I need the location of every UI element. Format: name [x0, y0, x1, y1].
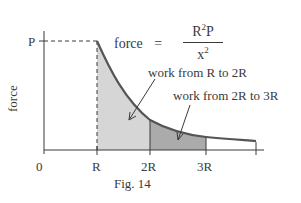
- tick-label-3r: 3R: [197, 160, 212, 173]
- formula-fraction: R2P x2: [183, 22, 223, 63]
- tick-label-2r: 2R: [141, 160, 156, 173]
- tick-label-0: 0: [36, 160, 43, 173]
- num-base: R: [192, 24, 201, 39]
- num-tail: P: [206, 24, 214, 39]
- p-label: P: [28, 35, 35, 48]
- y-axis-label: force: [5, 85, 21, 112]
- tick-label-r: R: [92, 160, 101, 173]
- den-exp: 2: [204, 45, 209, 55]
- formula-force: force: [114, 36, 143, 51]
- formula-equals: =: [154, 36, 162, 51]
- formula-numerator: R2P: [183, 22, 223, 43]
- annotation-region2: work from 2R to 3R: [173, 89, 278, 102]
- annotation-region1: work from R to 2R: [148, 66, 247, 79]
- formula-lhs: force =: [114, 36, 162, 52]
- figure-caption: Fig. 14: [114, 177, 151, 190]
- formula-denominator: x2: [183, 43, 223, 63]
